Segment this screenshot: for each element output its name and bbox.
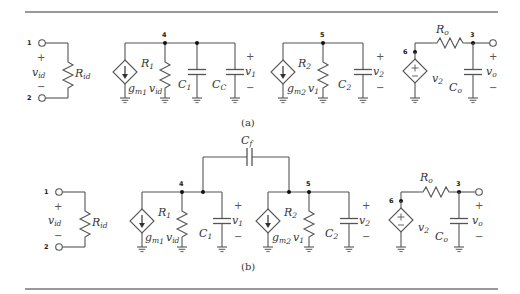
plus-sign: + [475,200,483,211]
feedback-capacitor: Cf [203,134,289,192]
plus-sign: + [234,200,242,211]
vo-label: vo [486,65,497,79]
gm2-label: gm2v1 [272,231,304,246]
terminal-2 [39,95,46,102]
rid-label: Rid [74,67,91,81]
caption-a: (a) [241,117,255,128]
node-label-2: 2 [44,243,49,251]
plus-sign: + [489,51,497,62]
plus-sign: + [362,200,370,211]
ro-label: Ro [435,23,449,37]
gm2-label: gm2v1 [287,82,319,97]
node-label-2: 2 [27,94,32,102]
plus-sign: + [54,201,62,212]
co-label: Co [449,81,462,95]
terminal-1 [39,40,46,47]
stage1-a: 4 R1 gm1vid C1 CC + − v1 [113,31,256,103]
node-label-5: 5 [306,180,311,188]
minus-sign: − [234,231,242,242]
circuit-figure: 1 2 + − vid Rid [0,0,520,294]
minus-sign: − [489,82,497,93]
output-stage-a: 6 3 Ro v2 Co + − vo [403,23,497,103]
stage2-b: 5 R2 gm2v1 C2 + − v2 [256,180,370,252]
plus-sign: + [246,51,254,62]
node-label-1: 1 [27,39,32,47]
plus-sign: + [376,51,384,62]
cc-label: CC [212,78,226,92]
c2-label: C2 [338,78,351,92]
minus-sign: − [376,82,384,93]
ro-label: Ro [419,171,433,185]
stage1-b: 4 R1 gm1vid C1 + − v1 [130,180,243,252]
c1-label: C1 [199,227,212,241]
v2-label: v2 [373,65,384,79]
minus-sign: − [475,231,483,242]
output-terminal [490,40,497,47]
v2-source-label: v2 [418,221,429,235]
output-terminal [476,189,483,196]
terminal-2 [56,244,63,251]
rid-label: Rid [91,216,108,230]
c1-label: C1 [178,78,191,92]
minus-sign: − [362,231,370,242]
v2-label: v2 [359,214,370,228]
plus-sign: + [37,52,45,63]
caption-b: (b) [241,261,255,272]
output-stage-b: 6 3 Ro v2 Co + − vo [389,171,483,252]
minus-sign: − [246,82,254,93]
r2-label: R2 [283,206,297,220]
v1-label: v1 [232,214,243,228]
gm1-label: gm1vid [145,231,180,246]
gm1-label: gm1vid [128,82,163,97]
minus-sign: − [37,81,45,92]
node-label-6: 6 [403,48,408,56]
vo-label: vo [472,214,483,228]
v1-label: v1 [245,65,256,79]
terminal-1 [56,189,63,196]
r1-label: R1 [157,206,171,220]
minus-sign: − [54,230,62,241]
r2-label: R2 [297,57,311,71]
r1-label: R1 [140,57,154,71]
subfigure-a: 1 2 + − vid Rid [27,23,497,128]
node-label-3: 3 [456,180,461,188]
input-stage-b: 1 2 + − vid Rid [44,188,108,251]
stage2-a: 5 R2 gm2v1 C2 + − v2 [271,31,384,103]
vid-label: vid [32,66,46,80]
co-label: Co [435,230,448,244]
vid-label: vid [48,214,62,228]
input-stage-a: 1 2 + − vid Rid [27,39,91,102]
cf-label: Cf [241,134,253,148]
node-label-6: 6 [389,197,394,205]
node-label-5: 5 [320,31,325,39]
v2-source-label: v2 [432,72,443,86]
node-label-4: 4 [179,180,184,188]
c2-label: C2 [325,227,338,241]
subfigure-b: Cf 1 2 + − vid Rid [44,134,483,272]
node-label-3: 3 [470,31,475,39]
node-label-1: 1 [44,188,49,196]
node-label-4: 4 [162,31,167,39]
